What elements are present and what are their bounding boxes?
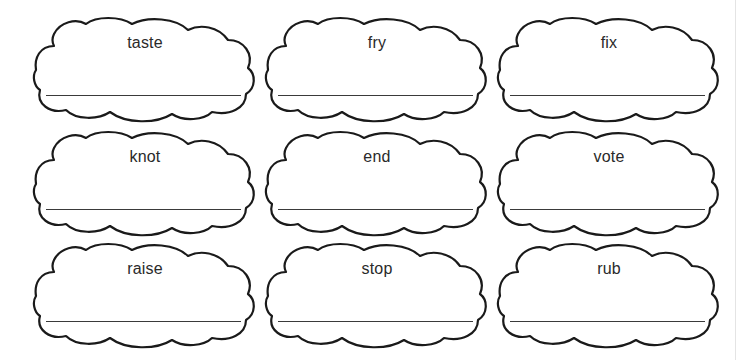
cloud-outline-icon [264,130,490,236]
card-word: taste [32,34,258,52]
card-word: stop [264,260,490,278]
card-word: raise [32,260,258,278]
word-card-knot: knot [32,130,258,236]
word-card-fix: fix [496,16,722,122]
cloud-outline-icon [32,16,258,122]
cloud-outline-icon [32,130,258,236]
card-word: rub [496,260,722,278]
card-word: end [264,148,490,166]
word-card-fry: fry [264,16,490,122]
word-card-stop: stop [264,242,490,348]
card-word: vote [496,148,722,166]
word-card-taste: taste [32,16,258,122]
card-word: fry [264,34,490,52]
word-card-end: end [264,130,490,236]
answer-blank[interactable] [278,321,473,322]
cloud-outline-icon [264,242,490,348]
answer-blank[interactable] [46,321,241,322]
word-card-rub: rub [496,242,722,348]
cloud-outline-icon [264,16,490,122]
answer-blank[interactable] [278,209,473,210]
card-word: knot [32,148,258,166]
answer-blank[interactable] [46,95,241,96]
answer-blank[interactable] [510,95,705,96]
cloud-outline-icon [496,130,722,236]
cloud-outline-icon [32,242,258,348]
word-card-raise: raise [32,242,258,348]
answer-blank[interactable] [510,321,705,322]
answer-blank[interactable] [278,95,473,96]
answer-blank[interactable] [510,209,705,210]
cloud-outline-icon [496,16,722,122]
answer-blank[interactable] [46,209,241,210]
cloud-outline-icon [496,242,722,348]
word-card-vote: vote [496,130,722,236]
card-word: fix [496,34,722,52]
page-edge-divider [735,0,736,360]
